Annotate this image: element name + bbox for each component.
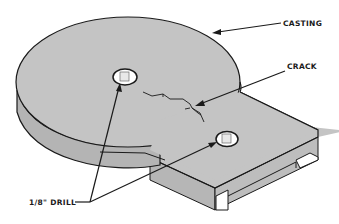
label-crack: CRACK xyxy=(287,62,317,71)
leader-casting xyxy=(212,23,281,35)
diagram-canvas: CASTING CRACK 1/8" DRILL xyxy=(0,0,339,224)
label-casting: CASTING xyxy=(283,19,322,28)
label-drill: 1/8" DRILL xyxy=(29,198,76,207)
drill-hole-2 xyxy=(216,132,238,147)
drill-hole-1 xyxy=(113,69,137,85)
casting-illustration xyxy=(0,0,339,224)
